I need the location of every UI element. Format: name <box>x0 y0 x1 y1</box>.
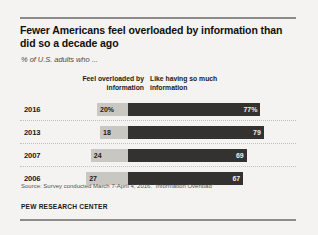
brand-label: PEW RESEARCH CENTER <box>21 203 108 210</box>
chart-subtitle: % of U.S. adults who ... <box>21 55 98 64</box>
column-header-like-having: Like having so much information <box>150 74 250 92</box>
column-headers: Feel overloaded by information Like havi… <box>20 74 296 96</box>
row-year-label: 2007 <box>24 151 41 160</box>
top-rule <box>20 17 296 19</box>
chart-title: Fewer Americans feel overloaded by infor… <box>20 24 292 50</box>
value-like-having: 79 <box>242 129 261 136</box>
value-overloaded: 20% <box>100 106 114 113</box>
value-overloaded: 27 <box>89 175 97 182</box>
value-like-having: 69 <box>225 152 244 159</box>
value-like-having: 67 <box>221 175 240 182</box>
chart-card: Fewer Americans feel overloaded by infor… <box>0 0 318 235</box>
value-overloaded: 18 <box>103 129 111 136</box>
chart-row: 20072469 <box>20 146 296 165</box>
bottom-rule <box>20 219 296 221</box>
column-header-overloaded: Feel overloaded by information <box>58 74 144 92</box>
row-year-label: 2013 <box>24 128 41 137</box>
chart-row: 201620%77% <box>20 100 296 119</box>
row-year-label: 2016 <box>24 105 41 114</box>
row-separator <box>20 120 296 122</box>
row-separator <box>20 166 296 168</box>
value-overloaded: 24 <box>94 152 102 159</box>
value-like-having: 77% <box>238 106 257 113</box>
chart-row: 20131879 <box>20 123 296 142</box>
source-note: Source: Survey conducted March 7-April 4… <box>21 182 271 190</box>
row-separator <box>20 143 296 145</box>
